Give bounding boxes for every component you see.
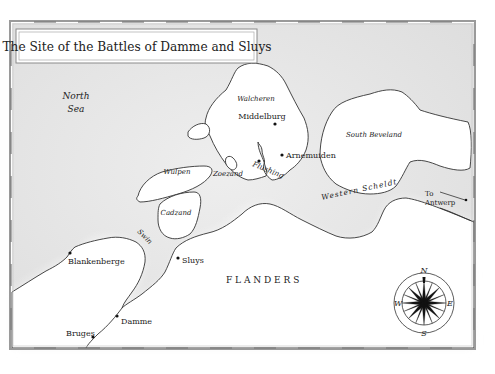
town-dot-blankenberge bbox=[68, 251, 71, 254]
label-arnemuiden: Arnemuiden bbox=[285, 151, 336, 160]
compass-south: S bbox=[421, 329, 427, 338]
label-north-sea-2: Sea bbox=[68, 104, 85, 114]
label-wulpen: Wulpen bbox=[164, 168, 191, 176]
map: North Sea Walcheren Middelburg Arnemuide… bbox=[0, 0, 495, 374]
town-dot-sluys bbox=[176, 256, 179, 259]
map-title: The Site of the Battles of Damme and Slu… bbox=[2, 40, 271, 54]
label-walcheren: Walcheren bbox=[237, 95, 275, 103]
town-dot-arnemuiden bbox=[280, 153, 283, 156]
compass-east: E bbox=[446, 299, 453, 308]
label-blankenberge: Blankenberge bbox=[68, 257, 125, 266]
compass-north: N bbox=[420, 266, 429, 275]
label-antwerp: Antwerp bbox=[424, 199, 456, 207]
compass-west: W bbox=[394, 299, 403, 308]
label-cadzand: Cadzand bbox=[161, 209, 192, 217]
label-flanders: F L A N D E R S bbox=[226, 275, 299, 285]
label-to: To bbox=[425, 190, 433, 198]
label-south-beveland: South Beveland bbox=[346, 131, 402, 139]
label-north-sea-1: North bbox=[61, 91, 89, 101]
label-zoezand: Zoezand bbox=[212, 170, 244, 178]
label-middelburg: Middelburg bbox=[238, 112, 286, 121]
title-box: The Site of the Battles of Damme and Slu… bbox=[2, 29, 271, 63]
town-dot-middelburg bbox=[273, 122, 276, 125]
label-damme: Damme bbox=[121, 317, 152, 326]
label-sluys: Sluys bbox=[182, 256, 204, 265]
label-bruges: Bruges bbox=[66, 329, 95, 338]
